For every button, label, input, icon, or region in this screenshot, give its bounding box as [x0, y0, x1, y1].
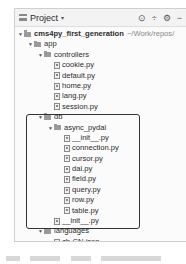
expand-arrow-icon[interactable]: ▼ [37, 50, 44, 60]
folder-label: db [54, 112, 62, 122]
tree-file[interactable]: query.py [15, 185, 186, 195]
python-file-icon [54, 62, 60, 69]
gear-icon[interactable]: ⚙ [163, 13, 171, 23]
file-label: home.py [62, 81, 91, 91]
tree-file[interactable]: cookie.py [15, 60, 186, 70]
tree-file[interactable]: dal.py [15, 164, 186, 174]
expand-arrow-icon[interactable]: ▼ [37, 112, 44, 122]
panel-title: Project [30, 13, 58, 23]
tree-file[interactable]: zh-CN.json [15, 237, 186, 242]
folder-label: async_pydal [64, 123, 106, 133]
locate-icon[interactable]: ⊙ [138, 13, 146, 23]
project-panel: Project ▾ ⊙ ÷ ⚙ − ▼ cms4py_first_generat… [14, 8, 186, 242]
file-label: cookie.py [62, 60, 94, 70]
caption-text-block [30, 256, 60, 261]
file-label: table.py [72, 206, 99, 216]
tree-node-db[interactable]: ▼ db [15, 112, 186, 122]
file-label: query.py [72, 185, 101, 195]
tree-file[interactable]: default.py [15, 71, 186, 81]
expand-arrow-icon[interactable]: ▼ [37, 226, 44, 236]
tree-file[interactable]: home.py [15, 81, 186, 91]
python-file-icon [64, 135, 70, 142]
python-file-icon [64, 145, 70, 152]
python-file-icon [54, 218, 60, 225]
file-label: field.py [72, 174, 96, 184]
tree-node-controllers[interactable]: ▼ controllers [15, 50, 186, 60]
file-label: connection.py [72, 143, 119, 153]
python-file-icon [54, 72, 60, 79]
collapse-all-icon[interactable]: ÷ [152, 13, 157, 23]
tree-file[interactable]: table.py [15, 206, 186, 216]
folder-label: languages [54, 226, 89, 236]
file-label: lang.py [62, 91, 87, 101]
file-label: __init__.py [62, 216, 99, 226]
json-file-icon [54, 239, 60, 243]
tree-file[interactable]: row.py [15, 195, 186, 205]
tree-node-async-pydal[interactable]: ▼ async_pydal [15, 123, 186, 133]
file-tree: ▼ cms4py_first_generation ~/Work/repos/ … [15, 27, 186, 242]
tree-file[interactable]: cursor.py [15, 154, 186, 164]
caption-text-block [101, 256, 161, 261]
file-label: zh-CN.json [62, 237, 100, 242]
folder-icon [44, 52, 51, 57]
tree-file[interactable]: session.py [15, 102, 186, 112]
tree-node-root[interactable]: ▼ cms4py_first_generation ~/Work/repos/ [15, 29, 186, 39]
folder-icon [44, 229, 51, 234]
project-view-selector[interactable]: Project ▾ [19, 13, 138, 23]
hide-icon[interactable]: − [177, 13, 182, 23]
python-file-icon [64, 166, 70, 173]
tree-file[interactable]: lang.py [15, 91, 186, 101]
python-file-icon [64, 197, 70, 204]
project-icon [19, 14, 27, 21]
python-file-icon [64, 155, 70, 162]
folder-icon [54, 125, 61, 130]
project-panel-header: Project ▾ ⊙ ÷ ⚙ − [15, 9, 186, 27]
tree-file[interactable]: __init__.py [15, 216, 186, 226]
tree-node-languages[interactable]: ▼ languages [15, 226, 186, 236]
python-file-icon [64, 207, 70, 214]
expand-arrow-icon[interactable]: ▼ [17, 29, 24, 39]
caption-text-block [71, 256, 91, 261]
folder-label: controllers [54, 50, 89, 60]
folder-icon [34, 42, 41, 47]
file-label: __init__.py [72, 133, 109, 143]
folder-icon [24, 32, 31, 37]
file-label: row.py [72, 195, 94, 205]
tree-node-app[interactable]: ▼ app [15, 39, 186, 49]
expand-arrow-icon[interactable]: ▼ [27, 39, 34, 49]
python-file-icon [54, 93, 60, 100]
file-label: dal.py [72, 164, 92, 174]
figure-caption [0, 249, 186, 261]
file-label: default.py [62, 71, 95, 81]
tree-file[interactable]: field.py [15, 174, 186, 184]
folder-label: app [44, 39, 57, 49]
python-file-icon [64, 176, 70, 183]
python-file-icon [54, 83, 60, 90]
root-folder-label: cms4py_first_generation [34, 29, 124, 39]
caption-text-block [6, 256, 20, 261]
chevron-down-icon: ▾ [61, 14, 64, 21]
root-folder-path: ~/Work/repos/ [127, 29, 174, 39]
folder-icon [44, 115, 51, 120]
tree-file[interactable]: connection.py [15, 143, 186, 153]
file-label: session.py [62, 102, 98, 112]
file-label: cursor.py [72, 154, 103, 164]
python-file-icon [54, 103, 60, 110]
tree-file[interactable]: __init__.py [15, 133, 186, 143]
python-file-icon [64, 187, 70, 194]
expand-arrow-icon[interactable]: ▼ [47, 123, 54, 133]
